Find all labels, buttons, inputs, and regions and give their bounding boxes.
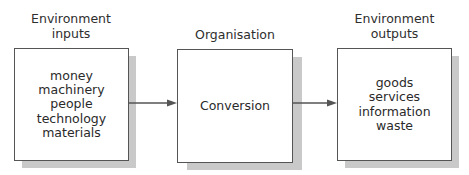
arrow-right-icon (129, 98, 177, 108)
output-item-waste: waste (376, 119, 413, 133)
outputs-heading: Environment outputs (337, 11, 452, 41)
organisation-box: Conversion (177, 49, 293, 163)
input-item-technology: technology (37, 112, 106, 126)
input-item-materials: materials (42, 126, 101, 140)
inputs-heading-line-1: Environment (14, 11, 128, 26)
outputs-box: goods services information waste (337, 48, 452, 161)
input-item-money: money (50, 69, 93, 83)
arrow-organisation-to-outputs (293, 98, 337, 108)
output-item-information: information (358, 105, 430, 119)
organisation-heading-line-1: Organisation (177, 27, 293, 42)
inputs-heading-line-2: inputs (14, 26, 128, 41)
output-item-goods: goods (376, 76, 414, 90)
arrow-right-icon (293, 98, 337, 108)
outputs-heading-line-1: Environment (337, 11, 452, 26)
outputs-heading-line-2: outputs (337, 26, 452, 41)
input-item-people: people (50, 97, 92, 111)
organisation-item-conversion: Conversion (200, 99, 270, 113)
output-item-services: services (369, 90, 420, 104)
inputs-box: money machinery people technology materi… (14, 48, 129, 161)
inputs-heading: Environment inputs (14, 11, 128, 41)
organisation-heading: Organisation (177, 27, 293, 42)
arrow-inputs-to-organisation (129, 98, 177, 108)
input-item-machinery: machinery (38, 83, 104, 97)
